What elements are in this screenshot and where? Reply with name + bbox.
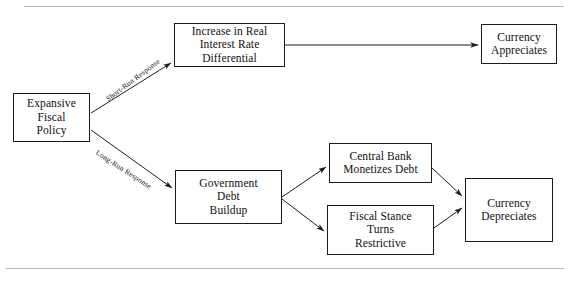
edge-label-long-run-response: Long-Run Response [94, 148, 153, 191]
node-central-bank-monetizes-debt[interactable]: Central BankMonetizes Debt [329, 143, 432, 183]
arrow-monetizes-to-depreciates [432, 168, 462, 196]
node-government-debt-buildup[interactable]: GovernmentDebtBuildup [175, 170, 282, 224]
node-fiscal-stance-restrictive[interactable]: Fiscal StanceTurnsRestrictive [327, 205, 434, 255]
figure-title-fragment [30, 0, 210, 1]
arrow-policy-to-interest-rate [91, 63, 171, 113]
node-label: ExpansiveFiscalPolicy [24, 97, 79, 138]
node-label: Central BankMonetizes Debt [340, 150, 421, 177]
node-label: Fiscal StanceTurnsRestrictive [346, 210, 414, 251]
node-expansive-fiscal-policy[interactable]: ExpansiveFiscalPolicy [13, 93, 90, 142]
node-interest-rate-differential[interactable]: Increase in RealInterest RateDifferentia… [174, 23, 285, 67]
node-currency-depreciates[interactable]: CurrencyDepreciates [465, 178, 553, 242]
figure-canvas: ExpansiveFiscalPolicy Increase in RealIn… [0, 0, 570, 282]
node-currency-appreciates[interactable]: CurrencyAppreciates [481, 24, 557, 64]
edge-label-short-run-response: Short-Run Response [104, 57, 162, 104]
node-label: CurrencyAppreciates [488, 31, 550, 58]
arrow-fiscal-stance-to-depreciates [434, 208, 462, 228]
bottom-horizontal-rule [6, 268, 564, 269]
node-label: Increase in RealInterest RateDifferentia… [189, 25, 271, 66]
arrow-debt-to-fiscal-stance [282, 199, 324, 231]
node-label: CurrencyDepreciates [478, 197, 539, 224]
node-label: GovernmentDebtBuildup [196, 177, 260, 218]
arrow-debt-to-monetizes [282, 167, 326, 197]
top-horizontal-rule [24, 6, 564, 7]
